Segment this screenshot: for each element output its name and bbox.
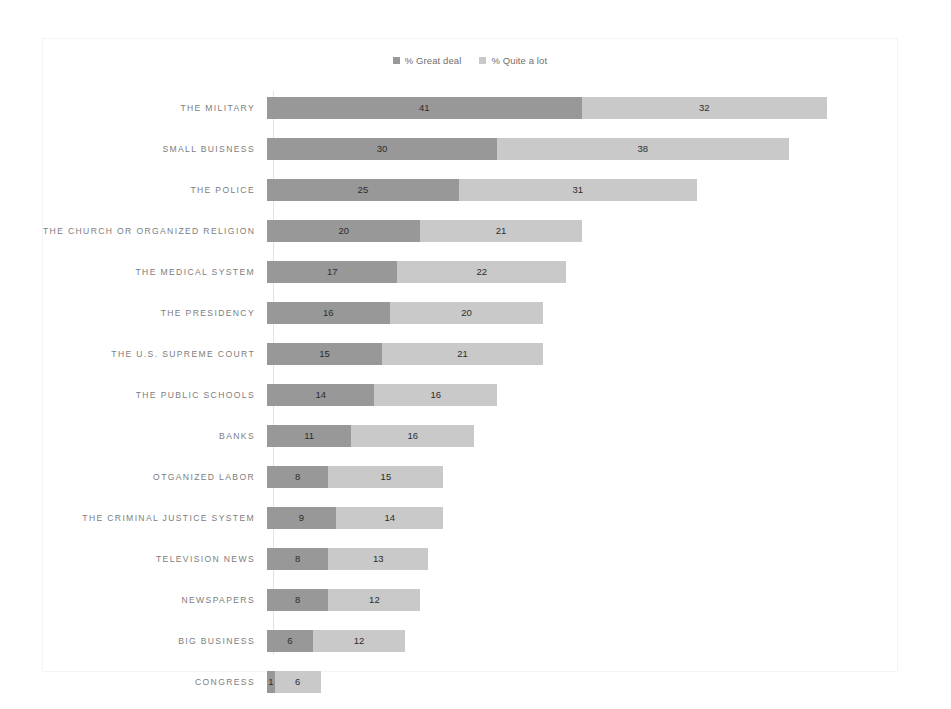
bar-row: SMALL BUISNESS3038 xyxy=(43,128,897,169)
bar-value-great-deal: 17 xyxy=(327,267,338,277)
bar-segment-quite-a-lot: 12 xyxy=(328,589,420,611)
bar-value-great-deal: 8 xyxy=(295,472,300,482)
bar-segment-quite-a-lot: 12 xyxy=(313,630,405,652)
category-label: CONGRESS xyxy=(43,677,267,687)
bar-segment-great-deal: 17 xyxy=(267,261,397,283)
bar-segment-quite-a-lot: 16 xyxy=(351,425,474,447)
plot-area: THE MILITARY4132SMALL BUISNESS3038THE PO… xyxy=(43,87,897,661)
category-label: BANKS xyxy=(43,431,267,441)
bar-row: THE U.S. SUPREME COURT1521 xyxy=(43,333,897,374)
stacked-bar: 612 xyxy=(267,630,405,652)
bar-row: THE PUBLIC SCHOOLS1416 xyxy=(43,374,897,415)
bar-segment-quite-a-lot: 31 xyxy=(459,179,697,201)
bar-row: TELEVISION NEWS813 xyxy=(43,538,897,579)
bar-value-great-deal: 11 xyxy=(304,431,314,441)
bar-segment-quite-a-lot: 13 xyxy=(328,548,428,570)
stacked-bar: 2531 xyxy=(267,179,697,201)
stacked-bar: 815 xyxy=(267,466,443,488)
category-label: OTGANIZED LABOR xyxy=(43,472,267,482)
chart-legend: % Great deal % Quite a lot xyxy=(43,55,897,66)
bar-value-great-deal: 41 xyxy=(419,103,430,113)
bar-segment-quite-a-lot: 14 xyxy=(336,507,443,529)
legend-label-great-deal: % Great deal xyxy=(405,55,462,66)
bar-segment-quite-a-lot: 21 xyxy=(420,220,581,242)
bar-segment-great-deal: 1 xyxy=(267,671,275,693)
bar-row: THE CHURCH OR ORGANIZED RELIGION2021 xyxy=(43,210,897,251)
bar-segment-great-deal: 14 xyxy=(267,384,374,406)
legend-item-quite-a-lot: % Quite a lot xyxy=(479,55,547,66)
bar-value-great-deal: 9 xyxy=(299,513,304,523)
legend-swatch-quite-a-lot-icon xyxy=(479,57,486,64)
bar-value-quite-a-lot: 14 xyxy=(384,513,395,523)
bar-value-quite-a-lot: 16 xyxy=(430,390,441,400)
bar-row: THE MILITARY4132 xyxy=(43,87,897,128)
stacked-bar: 914 xyxy=(267,507,443,529)
bar-segment-great-deal: 8 xyxy=(267,548,328,570)
bar-segment-quite-a-lot: 20 xyxy=(390,302,543,324)
category-label: THE MEDICAL SYSTEM xyxy=(43,267,267,277)
stacked-bar: 2021 xyxy=(267,220,582,242)
stacked-bar: 4132 xyxy=(267,97,827,119)
bar-segment-quite-a-lot: 21 xyxy=(382,343,543,365)
bar-segment-great-deal: 15 xyxy=(267,343,382,365)
bar-value-quite-a-lot: 12 xyxy=(369,595,380,605)
category-label: THE CRIMINAL JUSTICE SYSTEM xyxy=(43,513,267,523)
bar-segment-quite-a-lot: 22 xyxy=(397,261,566,283)
bar-row: THE CRIMINAL JUSTICE SYSTEM914 xyxy=(43,497,897,538)
category-label: THE MILITARY xyxy=(43,103,267,113)
bar-segment-great-deal: 25 xyxy=(267,179,459,201)
bar-value-great-deal: 20 xyxy=(338,226,349,236)
bar-value-quite-a-lot: 6 xyxy=(295,677,300,687)
bar-segment-great-deal: 41 xyxy=(267,97,582,119)
bar-value-quite-a-lot: 20 xyxy=(461,308,472,318)
bar-value-great-deal: 16 xyxy=(323,308,334,318)
bar-row: BIG BUSINESS612 xyxy=(43,620,897,661)
stacked-bar: 3038 xyxy=(267,138,789,160)
bar-segment-great-deal: 6 xyxy=(267,630,313,652)
category-label: THE CHURCH OR ORGANIZED RELIGION xyxy=(43,226,267,236)
bar-segment-great-deal: 16 xyxy=(267,302,390,324)
legend-item-great-deal: % Great deal xyxy=(393,55,462,66)
bar-value-quite-a-lot: 13 xyxy=(373,554,384,564)
bar-value-quite-a-lot: 21 xyxy=(457,349,468,359)
category-label: SMALL BUISNESS xyxy=(43,144,267,154)
bar-value-quite-a-lot: 12 xyxy=(354,636,365,646)
category-label: THE POLICE xyxy=(43,185,267,195)
bar-segment-great-deal: 20 xyxy=(267,220,420,242)
category-label: NEWSPAPERS xyxy=(43,595,267,605)
bar-segment-quite-a-lot: 38 xyxy=(497,138,789,160)
bar-row: THE PRESIDENCY1620 xyxy=(43,292,897,333)
bar-value-quite-a-lot: 38 xyxy=(638,144,649,154)
stacked-bar: 1521 xyxy=(267,343,543,365)
legend-swatch-great-deal-icon xyxy=(393,57,400,64)
stacked-bar: 1722 xyxy=(267,261,566,283)
bar-value-great-deal: 8 xyxy=(295,595,300,605)
bar-row: BANKS1116 xyxy=(43,415,897,456)
bar-value-great-deal: 25 xyxy=(358,185,369,195)
bar-row: NEWSPAPERS812 xyxy=(43,579,897,620)
bar-value-great-deal: 6 xyxy=(287,636,292,646)
category-label: BIG BUSINESS xyxy=(43,636,267,646)
bar-segment-great-deal: 8 xyxy=(267,466,328,488)
stacked-bar: 813 xyxy=(267,548,428,570)
legend-label-quite-a-lot: % Quite a lot xyxy=(491,55,547,66)
bar-value-great-deal: 30 xyxy=(377,144,388,154)
bar-value-great-deal: 8 xyxy=(295,554,300,564)
bar-segment-great-deal: 30 xyxy=(267,138,497,160)
bar-value-great-deal: 1 xyxy=(268,677,273,687)
bar-segment-great-deal: 11 xyxy=(267,425,351,447)
stacked-bar: 16 xyxy=(267,671,321,693)
bar-row: OTGANIZED LABOR815 xyxy=(43,456,897,497)
bar-value-quite-a-lot: 22 xyxy=(477,267,488,277)
bar-value-quite-a-lot: 31 xyxy=(572,185,583,195)
bar-value-great-deal: 15 xyxy=(319,349,330,359)
bar-segment-quite-a-lot: 32 xyxy=(582,97,827,119)
bar-row: THE POLICE2531 xyxy=(43,169,897,210)
bar-segment-great-deal: 8 xyxy=(267,589,328,611)
bar-value-quite-a-lot: 32 xyxy=(699,103,710,113)
stacked-bar: 812 xyxy=(267,589,420,611)
stacked-bar: 1116 xyxy=(267,425,474,447)
category-label: TELEVISION NEWS xyxy=(43,554,267,564)
category-label: THE PUBLIC SCHOOLS xyxy=(43,390,267,400)
stacked-bar: 1416 xyxy=(267,384,497,406)
